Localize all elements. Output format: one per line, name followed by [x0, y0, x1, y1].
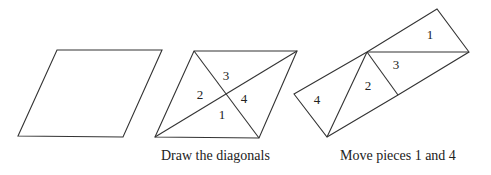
- label-4-moved: 4: [314, 92, 321, 107]
- caption-draw-diagonals: Draw the diagonals: [161, 148, 270, 164]
- caption-move-pieces: Move pieces 1 and 4: [340, 148, 456, 164]
- piece-divider-2: [327, 52, 367, 137]
- label-1-moved: 1: [427, 27, 434, 42]
- label-3-moved: 3: [393, 57, 400, 72]
- label-2: 2: [197, 87, 204, 102]
- label-3: 3: [223, 68, 230, 83]
- label-2-moved: 2: [365, 78, 372, 93]
- diagonal-2: [155, 51, 297, 137]
- diagonal-1: [194, 51, 259, 138]
- parallelogram-plain: [18, 50, 162, 137]
- label-1: 1: [219, 107, 226, 122]
- label-4: 4: [241, 91, 248, 106]
